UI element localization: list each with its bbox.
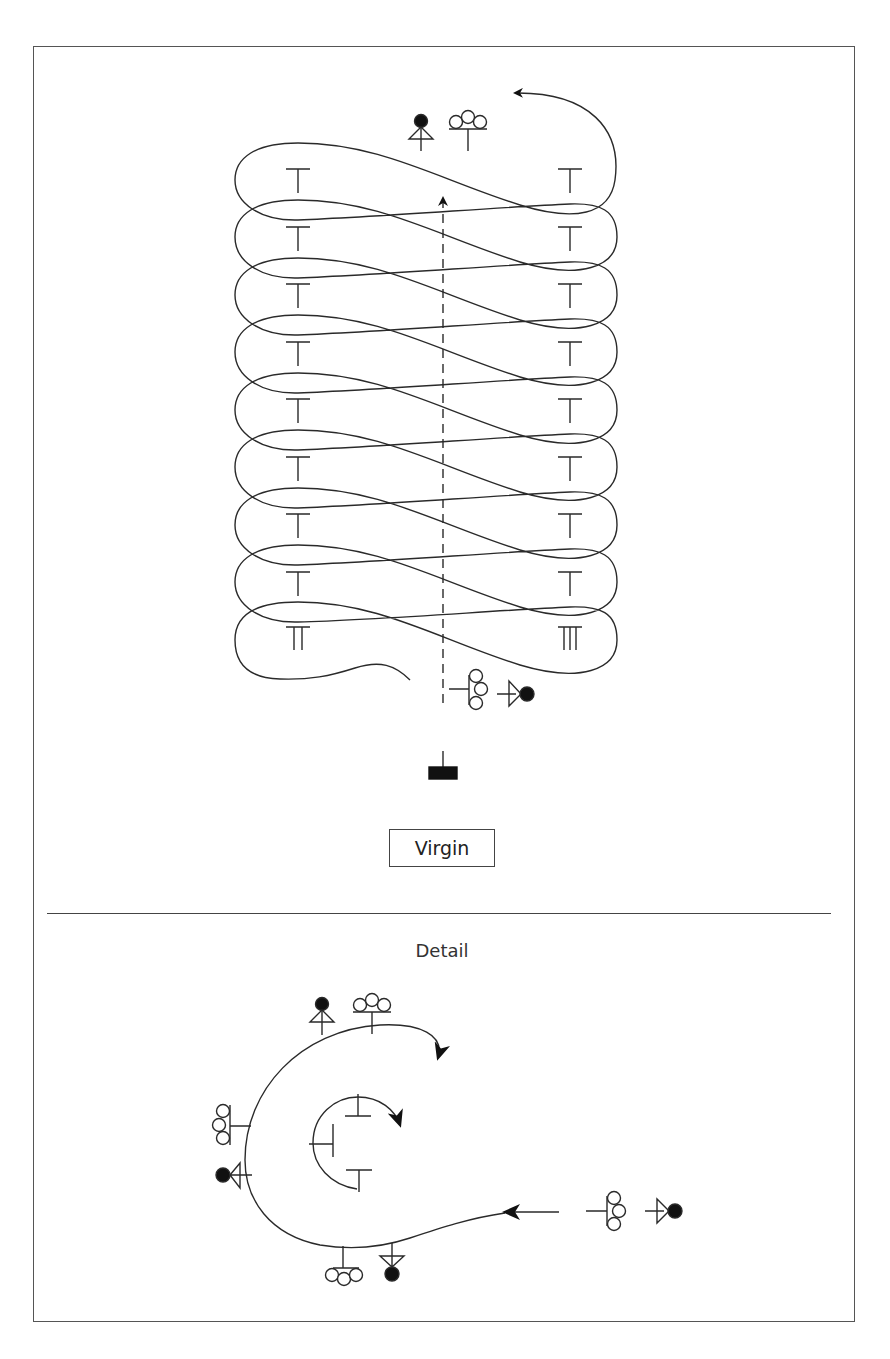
detail-symbol-three-circles-left (213, 1105, 252, 1146)
virgin-label-box: Virgin (389, 829, 495, 867)
top-symbol-filled-circle-triangle (409, 115, 433, 152)
detail-inner-markers (309, 1094, 372, 1192)
virgin-label: Virgin (415, 837, 470, 859)
detail-symbol-three-circles-bottom (326, 1246, 363, 1286)
spiral-path (235, 93, 617, 680)
bottom-symbol-three-circles-stacked (449, 670, 488, 710)
detail-symbol-triangle-filled-circle-left (216, 1163, 252, 1188)
detail-heading: Detail (380, 940, 504, 961)
bottom-symbol-triangle-filled-circle (497, 681, 534, 706)
detail-outer-path (245, 1025, 505, 1248)
detail-symbol-triangle-filled-circle-bottom (380, 1243, 404, 1281)
detail-inner-arc (313, 1097, 400, 1189)
right-markers (558, 169, 582, 650)
detail-entry-triangle-filled-circle (645, 1199, 682, 1223)
left-markers (286, 169, 310, 650)
detail-diagram (213, 994, 683, 1286)
top-symbol-three-circles (449, 111, 487, 152)
detail-symbol-filled-circle-triangle-top (310, 998, 334, 1036)
base-symbol-rectangle (429, 751, 457, 779)
detail-entry-three-circles (586, 1192, 626, 1231)
section-divider (47, 913, 831, 914)
dance-pattern-diagram (0, 0, 890, 1359)
